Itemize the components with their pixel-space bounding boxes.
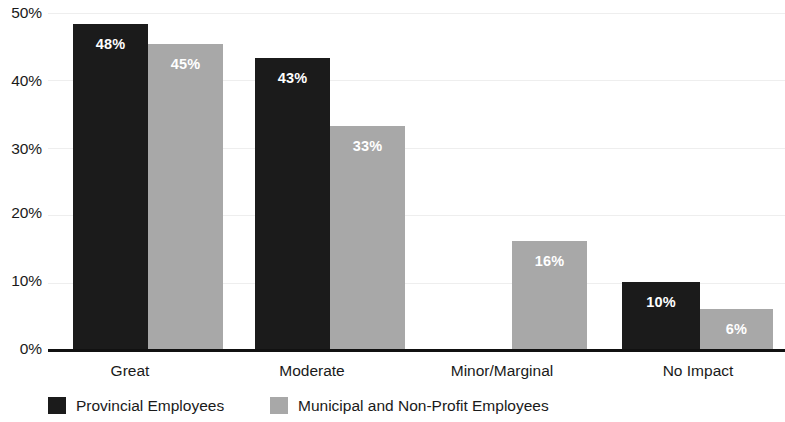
x-axis-line	[48, 349, 785, 352]
legend-item-label: Provincial Employees	[76, 397, 224, 414]
bar-value-label: 33%	[330, 138, 405, 154]
bar-provincial-no-impact: 10%	[622, 282, 700, 350]
y-tick-label: 40%	[0, 73, 42, 88]
bar-value-label: 43%	[255, 70, 330, 86]
bar-municipal-minor-marginal: 16%	[512, 241, 587, 350]
y-tick-label: 10%	[0, 273, 42, 288]
y-tick-label: 50%	[0, 5, 42, 20]
y-tick-label: 20%	[0, 205, 42, 220]
bar-municipal-great: 45%	[148, 44, 223, 350]
legend-item-label: Municipal and Non-Profit Employees	[298, 397, 549, 414]
x-category-label: Minor/Marginal	[412, 362, 592, 380]
legend-swatch-icon	[270, 397, 288, 414]
bar-municipal-no-impact: 6%	[700, 309, 773, 350]
x-category-label: Moderate	[222, 362, 402, 380]
gridline	[48, 13, 785, 14]
bar-chart: 50% 40% 30% 20% 10% 0% 48% 45% 43% 33% 1…	[0, 0, 785, 422]
y-tick-label: 0%	[0, 341, 42, 356]
legend-item: Provincial Employees	[48, 394, 224, 416]
chart-legend: Provincial Employees Municipal and Non-P…	[0, 394, 785, 418]
bar-provincial-great: 48%	[73, 24, 148, 350]
bar-value-label: 16%	[512, 253, 587, 269]
x-category-label: Great	[40, 362, 220, 380]
bar-value-label: 6%	[700, 321, 773, 337]
bar-value-label: 10%	[622, 294, 700, 310]
plot-area: 48% 45% 43% 33% 16% 10% 6%	[48, 13, 785, 350]
y-tick-label: 30%	[0, 141, 42, 156]
bar-provincial-moderate: 43%	[255, 58, 330, 350]
bar-value-label: 45%	[148, 56, 223, 72]
bar-municipal-moderate: 33%	[330, 126, 405, 350]
legend-item: Municipal and Non-Profit Employees	[270, 394, 549, 416]
legend-swatch-icon	[48, 397, 66, 414]
bar-value-label: 48%	[73, 36, 148, 52]
x-category-label: No Impact	[608, 362, 785, 380]
